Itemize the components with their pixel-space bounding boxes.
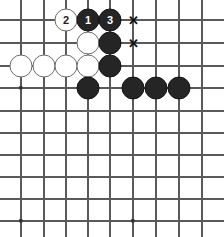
cross-mark-icon-1: ✕ <box>128 37 139 50</box>
cross-mark-icon-0: ✕ <box>128 14 139 27</box>
marks-layer: ✕✕ <box>0 0 224 237</box>
go-board-diagram: 213 ✕✕ <box>0 0 224 237</box>
